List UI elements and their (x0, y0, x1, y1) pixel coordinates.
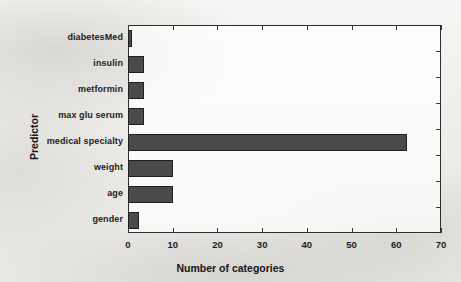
x-tick-mark-top (441, 25, 442, 30)
x-tick-label: 50 (332, 239, 372, 250)
x-tick-mark (173, 228, 174, 233)
bar (128, 134, 407, 151)
x-tick-mark (441, 228, 442, 233)
x-tick-label: 30 (242, 239, 282, 250)
x-tick-mark-top (128, 25, 129, 30)
y-tick-mark-right (436, 51, 441, 52)
x-tick-mark (128, 228, 129, 233)
x-tick-mark-top (307, 25, 308, 30)
x-tick-mark-top (396, 25, 397, 30)
y-tick-mark-right (436, 155, 441, 156)
bar (128, 82, 144, 99)
x-tick-mark-top (217, 25, 218, 30)
category-label: age (107, 188, 123, 198)
x-tick-label: 10 (153, 239, 193, 250)
y-tick-mark-right (436, 207, 441, 208)
x-tick-label: 0 (108, 239, 148, 250)
bar (128, 30, 132, 47)
bar-chart-figure: diabetesMedinsulinmetforminmax glu serum… (0, 0, 461, 282)
category-label: weight (94, 162, 123, 172)
y-tick-mark-right (436, 129, 441, 130)
x-tick-label: 70 (421, 239, 461, 250)
bar (128, 212, 139, 229)
x-tick-mark (307, 228, 308, 233)
bar (128, 186, 173, 203)
x-tick-mark (396, 228, 397, 233)
category-label: metformin (78, 84, 123, 94)
x-tick-mark-top (262, 25, 263, 30)
category-label: insulin (93, 58, 123, 68)
x-tick-mark (262, 228, 263, 233)
category-label: max glu serum (58, 110, 123, 120)
x-axis-title: Number of categories (0, 262, 461, 274)
x-tick-mark-top (352, 25, 353, 30)
bar (128, 56, 144, 73)
y-tick-mark-right (436, 77, 441, 78)
y-axis-title: Predictor (28, 114, 40, 160)
category-label: gender (92, 214, 123, 224)
x-tick-label: 20 (197, 239, 237, 250)
y-tick-mark-right (436, 103, 441, 104)
x-tick-mark (217, 228, 218, 233)
category-label: diabetesMed (67, 32, 123, 42)
x-tick-mark (352, 228, 353, 233)
y-tick-mark-right (436, 181, 441, 182)
category-label: medical specialty (47, 136, 123, 146)
x-tick-label: 60 (376, 239, 416, 250)
plot-area (128, 25, 441, 233)
bar (128, 108, 144, 125)
bar (128, 160, 173, 177)
x-tick-label: 40 (287, 239, 327, 250)
x-tick-mark-top (173, 25, 174, 30)
